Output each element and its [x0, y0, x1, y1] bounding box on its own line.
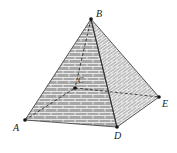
vertex-C	[73, 86, 77, 90]
label-D: D	[114, 130, 121, 141]
vertex-A	[23, 118, 27, 122]
label-B: B	[96, 8, 102, 19]
vertex-D	[115, 125, 119, 129]
label-A: A	[13, 122, 19, 133]
label-E: E	[162, 98, 168, 109]
pyramid-diagram	[0, 0, 177, 153]
label-C: C	[78, 76, 83, 85]
vertex-E	[157, 95, 161, 99]
vertex-B	[89, 17, 93, 21]
